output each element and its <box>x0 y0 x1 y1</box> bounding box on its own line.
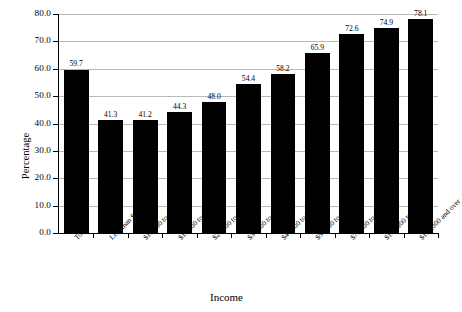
y-axis-tick <box>53 233 59 234</box>
y-axis-tick-label: 20.0 <box>35 174 51 183</box>
bar-value-label: 65.9 <box>311 44 324 52</box>
bar-value-label: 78.1 <box>414 10 427 18</box>
x-axis-tick <box>300 233 301 238</box>
y-axis-tick-label: 80.0 <box>35 9 51 18</box>
bar-value-label: 58.2 <box>276 65 289 73</box>
x-axis-tick <box>128 233 129 238</box>
x-axis-tick <box>369 233 370 238</box>
x-axis-tick <box>197 233 198 238</box>
bar <box>64 70 89 233</box>
x-axis-title: Income <box>0 291 453 303</box>
bar-value-label: 74.9 <box>380 19 393 27</box>
bar-value-label: 48.0 <box>207 93 220 101</box>
x-axis-tick <box>404 233 405 238</box>
bar-value-label: 59.7 <box>70 60 83 68</box>
bar-value-label: 41.3 <box>104 111 117 119</box>
y-axis-tick-label: 60.0 <box>35 64 51 73</box>
bar-group: 59.7 <box>59 14 93 233</box>
y-axis-title: Percentage <box>20 133 31 179</box>
y-axis-tick-label: 70.0 <box>35 37 51 46</box>
y-axis-tick-label: 0.0 <box>39 228 51 237</box>
bar <box>98 120 123 233</box>
y-axis-tick-label: 40.0 <box>35 119 51 128</box>
y-axis-tick-label: 50.0 <box>35 92 51 101</box>
x-axis-tick <box>266 233 267 238</box>
bar-value-label: 41.2 <box>138 111 151 119</box>
x-axis-tick <box>162 233 163 238</box>
x-axis-tick <box>93 233 94 238</box>
bar-group: 41.3 <box>93 14 127 233</box>
x-axis-tick <box>335 233 336 238</box>
x-axis-tick <box>231 233 232 238</box>
bar-value-label: 72.6 <box>345 25 358 33</box>
bar-value-label: 44.3 <box>173 103 186 111</box>
y-axis-tick-label: 10.0 <box>35 201 51 210</box>
y-axis-tick-label: 30.0 <box>35 146 51 155</box>
bar-value-label: 54.4 <box>242 75 255 83</box>
x-axis-tick <box>438 233 439 238</box>
